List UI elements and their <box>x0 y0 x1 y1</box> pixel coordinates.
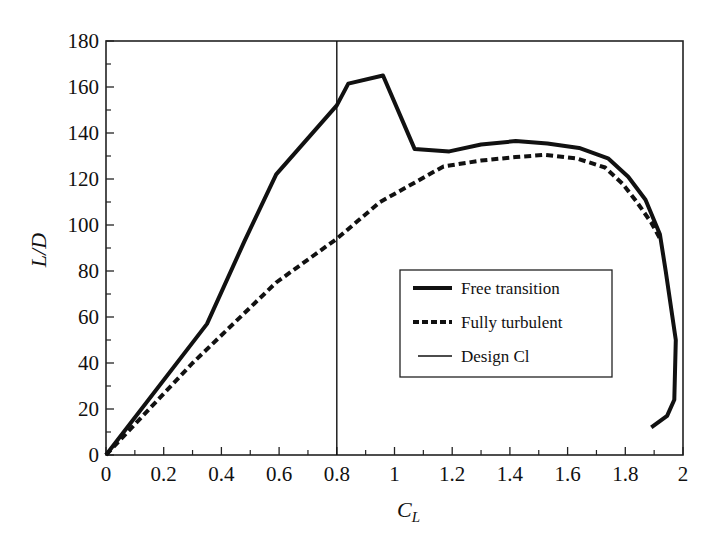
x-tick-label: 0 <box>101 462 112 486</box>
legend-label: Design Cl <box>461 347 530 366</box>
x-tick-label: 1.2 <box>439 462 465 486</box>
x-tick-label: 0.8 <box>324 462 350 486</box>
x-tick-label: 0.2 <box>151 462 177 486</box>
y-tick-label: 140 <box>68 121 100 145</box>
y-tick-label: 100 <box>68 213 100 237</box>
x-tick-label: 1 <box>389 462 400 486</box>
chart: 00.20.40.60.811.21.41.61.82 020406080100… <box>0 0 721 542</box>
y-axis-ticks: 020406080100120140160180 <box>68 29 115 467</box>
y-tick-label: 20 <box>78 397 99 421</box>
x-tick-label: 1.4 <box>497 462 524 486</box>
legend: Free transition Fully turbulent Design C… <box>400 270 612 377</box>
y-axis-title: L/D <box>26 233 51 268</box>
x-axis-title-subscript: L <box>411 509 420 525</box>
x-tick-label: 0.6 <box>266 462 292 486</box>
x-axis-ticks: 00.20.40.60.811.21.41.61.82 <box>101 447 689 486</box>
y-tick-label: 80 <box>78 259 99 283</box>
x-tick-label: 1.6 <box>554 462 580 486</box>
y-tick-label: 40 <box>78 351 99 375</box>
y-tick-label: 160 <box>68 75 100 99</box>
y-tick-label: 60 <box>78 305 99 329</box>
series-free-transition <box>106 76 676 456</box>
x-axis-title: CL <box>397 497 420 525</box>
legend-label: Fully turbulent <box>461 313 563 332</box>
series-layer <box>106 41 676 455</box>
y-tick-label: 180 <box>68 29 100 53</box>
x-axis-title-main: C <box>397 497 412 522</box>
y-tick-label: 0 <box>89 443 100 467</box>
legend-label: Free transition <box>461 279 560 298</box>
x-tick-label: 2 <box>678 462 689 486</box>
y-tick-label: 120 <box>68 167 100 191</box>
x-tick-label: 0.4 <box>208 462 235 486</box>
x-tick-label: 1.8 <box>612 462 638 486</box>
